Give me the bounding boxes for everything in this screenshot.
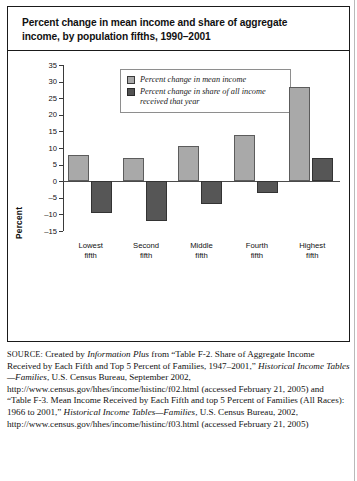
- y-tick: –15: [59, 231, 63, 232]
- x-axis-label-line: Lowest: [63, 241, 118, 251]
- x-axis-label-line: Middle: [174, 241, 229, 251]
- bar-group: [285, 65, 340, 231]
- axes: 35302520151050–5–10–15: [63, 65, 340, 231]
- x-axis-label: Highestfifth: [285, 241, 340, 260]
- bar-mean-income: [289, 87, 310, 182]
- x-axis-label-line: fifth: [174, 251, 229, 261]
- bar-group: [229, 65, 284, 231]
- source-fragment: Historical Income Tables—Families: [64, 407, 196, 417]
- figure-title-line-1: Percent change in mean income and share …: [22, 17, 287, 28]
- bar-mean-income: [178, 146, 199, 181]
- bar-group: [174, 65, 229, 231]
- y-tick-label: 10: [49, 144, 57, 153]
- figure-box: Percent change in mean income and share …: [7, 6, 350, 342]
- source-note: SOURCE: Created by Information Plus from…: [7, 349, 350, 430]
- x-axis-label-line: fifth: [229, 251, 284, 261]
- x-axis-label: Fourthfifth: [229, 241, 284, 260]
- figure-title-line-2: income, by population fifths, 1990–2001: [22, 30, 335, 44]
- x-axis-label-line: Fourth: [229, 241, 284, 251]
- x-axis-label: Lowestfifth: [63, 241, 118, 260]
- y-tick-label: –15: [44, 227, 57, 236]
- y-tick-label: 5: [53, 160, 57, 169]
- bar-share-income: [91, 181, 112, 213]
- bar-mean-income: [123, 158, 144, 181]
- y-tick-label: 35: [49, 61, 57, 70]
- figure-page: Percent change in mean income and share …: [0, 0, 357, 481]
- y-tick-label: –10: [44, 210, 57, 219]
- y-tick-label: 20: [49, 110, 57, 119]
- y-axis-title: Percent: [14, 207, 24, 239]
- bar-share-income: [146, 181, 167, 221]
- bar-share-income: [257, 181, 278, 193]
- y-tick-label: –5: [49, 193, 57, 202]
- figure-title: Percent change in mean income and share …: [8, 7, 349, 43]
- bar-share-income: [201, 181, 222, 204]
- y-tick-label: 15: [49, 127, 57, 136]
- x-axis-label-line: fifth: [118, 251, 173, 261]
- bar-share-income: [312, 158, 333, 181]
- y-tick-label: 30: [49, 77, 57, 86]
- bar-group: [63, 65, 118, 231]
- x-axis-label-line: fifth: [285, 251, 340, 261]
- x-axis-label-line: fifth: [63, 251, 118, 261]
- bar-series-container: [63, 65, 340, 231]
- y-tick-label: 0: [53, 177, 57, 186]
- bar-group: [118, 65, 173, 231]
- bar-mean-income: [68, 155, 89, 182]
- chart-area: Percent change in mean income Percent ch…: [8, 51, 351, 281]
- page-edge-rule: [354, 0, 355, 481]
- source-text: Created by Information Plus from “Table …: [7, 349, 350, 429]
- bar-mean-income: [234, 135, 255, 181]
- y-tick-label: 25: [49, 94, 57, 103]
- plot-area: Percent 35302520151050–5–10–15 Lowestfif…: [8, 51, 351, 281]
- x-axis-label-line: Second: [118, 241, 173, 251]
- x-axis-label: Secondfifth: [118, 241, 173, 260]
- source-fragment: Information Plus: [87, 349, 149, 359]
- source-fragment: Created by: [43, 349, 87, 359]
- x-axis-label-line: Highest: [285, 241, 340, 251]
- source-tag: SOURCE:: [7, 350, 43, 359]
- x-axis-labels: LowestfifthSecondfifthMiddlefifthFourthf…: [63, 241, 340, 271]
- x-axis-label: Middlefifth: [174, 241, 229, 260]
